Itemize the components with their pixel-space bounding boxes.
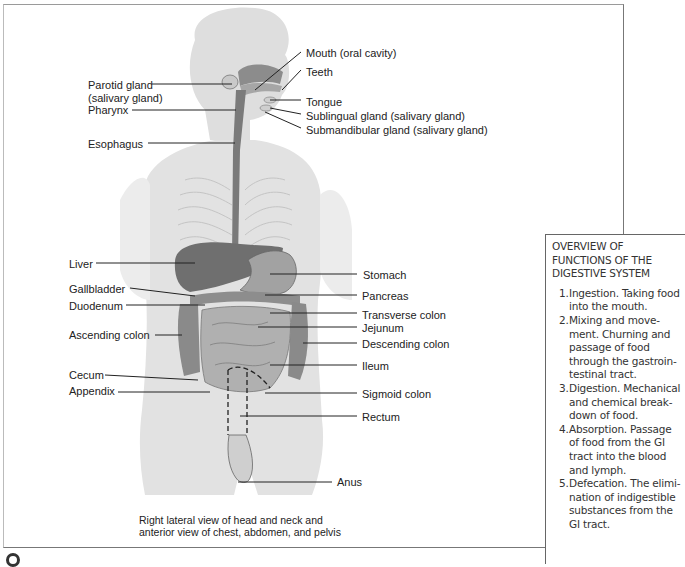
label-sublingual-gland: Sublingual gland (salivary gland) bbox=[306, 110, 465, 122]
figure-caption: Right lateral view of head and neck and … bbox=[139, 514, 341, 538]
item-line: GI tract. bbox=[569, 518, 685, 532]
label-cecum: Cecum bbox=[69, 369, 104, 381]
item-line: into the mouth. bbox=[569, 300, 685, 314]
label-gallbladder: Gallbladder bbox=[69, 283, 125, 295]
overview-title-line-1: OVERVIEW OF bbox=[552, 240, 685, 254]
label-submandibular-gland: Submandibular gland (salivary gland) bbox=[306, 124, 488, 136]
label-anus: Anus bbox=[337, 476, 362, 488]
item-line: through the gastroin- bbox=[569, 355, 685, 369]
item-line: nation of indigestible bbox=[569, 491, 685, 505]
label-ascending-colon: Ascending colon bbox=[69, 329, 150, 341]
overview-item-digestion: 3. Digestion. Mechanical and chemical br… bbox=[552, 382, 685, 423]
item-line: and lymph. bbox=[569, 464, 685, 478]
label-jejunum: Jejunum bbox=[362, 322, 404, 334]
item-number: 4. bbox=[559, 423, 569, 437]
item-line: tract into the blood bbox=[569, 450, 685, 464]
label-teeth: Teeth bbox=[306, 66, 333, 78]
overview-title-line-2: FUNCTIONS OF THE bbox=[552, 254, 685, 268]
item-line: testinal tract. bbox=[569, 368, 685, 382]
label-rectum: Rectum bbox=[362, 411, 400, 423]
item-number: 5. bbox=[559, 477, 569, 491]
item-line: Absorption. Passage bbox=[569, 423, 685, 437]
label-appendix: Appendix bbox=[69, 385, 115, 397]
item-line: Defecation. The elimi- bbox=[569, 477, 685, 491]
label-descending-colon: Descending colon bbox=[362, 338, 449, 350]
circle-marker-icon bbox=[6, 553, 20, 567]
item-line: passage of food bbox=[569, 341, 685, 355]
item-line: Ingestion. Taking food bbox=[569, 287, 685, 301]
caption-line-1: Right lateral view of head and neck and bbox=[139, 514, 341, 526]
overview-list: 1. Ingestion. Taking food into the mouth… bbox=[552, 287, 685, 532]
label-sigmoid-colon: Sigmoid colon bbox=[362, 388, 431, 400]
label-pharynx: Pharynx bbox=[88, 104, 128, 116]
item-line: ment. Churning and bbox=[569, 328, 685, 342]
item-line: of food from the GI bbox=[569, 436, 685, 450]
label-esophagus: Esophagus bbox=[88, 138, 143, 150]
item-number: 2. bbox=[559, 314, 569, 328]
label-liver: Liver bbox=[69, 258, 93, 270]
item-line: Mixing and move- bbox=[569, 314, 685, 328]
item-line: and chemical break- bbox=[569, 396, 685, 410]
overview-title: OVERVIEW OF FUNCTIONS OF THE DIGESTIVE S… bbox=[552, 240, 685, 281]
caption-line-2: anterior view of chest, abdomen, and pel… bbox=[139, 526, 341, 538]
label-duodenum: Duodenum bbox=[69, 300, 123, 312]
overview-item-ingestion: 1. Ingestion. Taking food into the mouth… bbox=[552, 287, 685, 314]
label-mouth: Mouth (oral cavity) bbox=[306, 47, 396, 59]
label-tongue: Tongue bbox=[306, 96, 342, 108]
overview-item-mixing: 2. Mixing and move- ment. Churning and p… bbox=[552, 314, 685, 382]
label-transverse-colon: Transverse colon bbox=[362, 309, 446, 321]
label-parotid-gland: Parotid gland bbox=[88, 79, 153, 91]
item-line: Digestion. Mechanical bbox=[569, 382, 685, 396]
small-intestine bbox=[201, 306, 291, 391]
item-number: 3. bbox=[559, 382, 569, 396]
item-line: substances from the bbox=[569, 504, 685, 518]
item-number: 1. bbox=[559, 287, 569, 301]
label-parotid-salivary: (salivary gland) bbox=[88, 92, 163, 104]
overview-title-line-3: DIGESTIVE SYSTEM bbox=[552, 267, 685, 281]
label-pancreas: Pancreas bbox=[362, 290, 408, 302]
label-ileum: Ileum bbox=[362, 360, 389, 372]
item-line: down of food. bbox=[569, 409, 685, 423]
label-stomach: Stomach bbox=[363, 269, 406, 281]
overview-item-absorption: 4. Absorption. Passage of food from the … bbox=[552, 423, 685, 477]
overview-panel: OVERVIEW OF FUNCTIONS OF THE DIGESTIVE S… bbox=[545, 234, 685, 564]
overview-item-defecation: 5. Defecation. The elimi- nation of indi… bbox=[552, 477, 685, 531]
